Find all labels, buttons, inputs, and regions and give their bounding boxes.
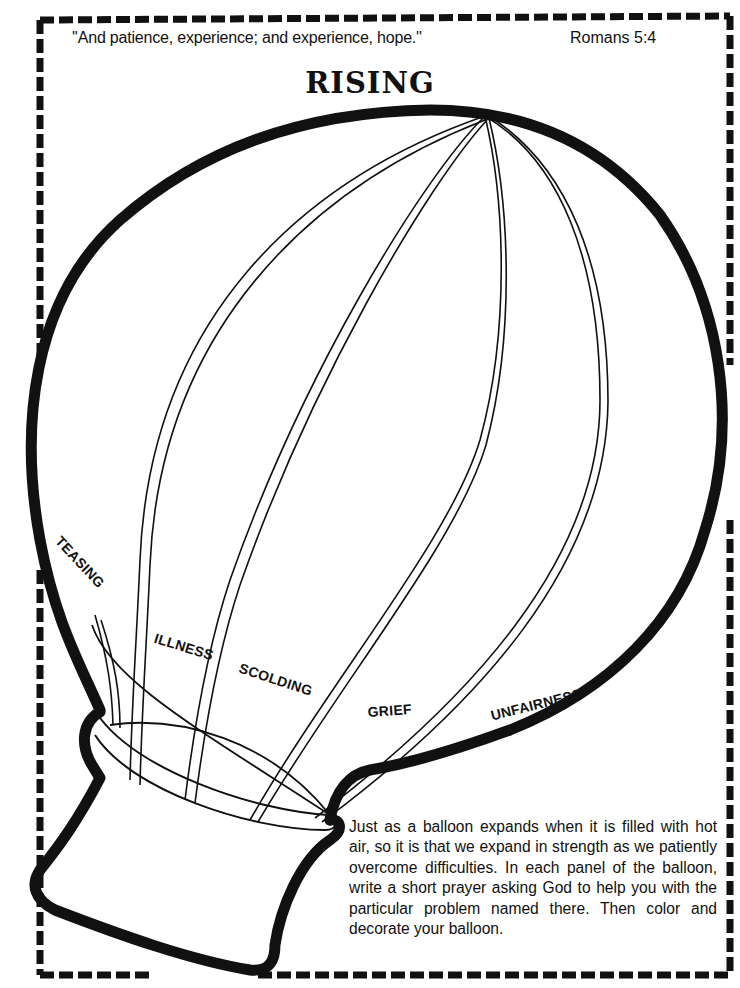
scripture-reference: Romans 5:4: [570, 29, 656, 47]
scripture-quote: ''And patience, experience; and experien…: [72, 29, 422, 47]
activity-page: ''And patience, experience; and experien…: [0, 0, 740, 988]
panel-label-grief: GRIEF: [367, 701, 412, 720]
basket-outline: [35, 712, 339, 970]
instructions-text: Just as a balloon expands when it is fil…: [349, 817, 717, 939]
page-title: RISING: [0, 66, 740, 100]
